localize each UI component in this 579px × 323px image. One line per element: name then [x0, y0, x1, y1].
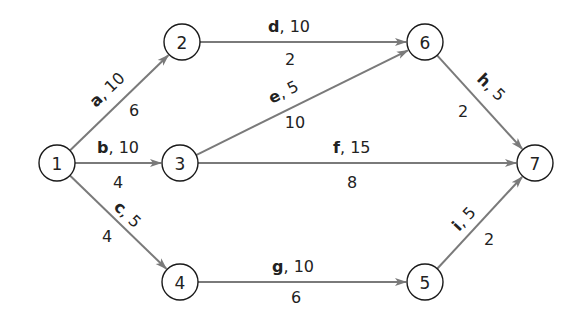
node-label: 7 [530, 154, 541, 174]
activity-top-value: 15 [350, 138, 370, 157]
node-5: 5 [407, 264, 443, 300]
activity-name: b [97, 138, 108, 157]
edge-g-bottom-value: 6 [291, 288, 301, 307]
activity-top-value: 10 [294, 257, 314, 276]
edge-g-label: g, 10 [272, 257, 314, 276]
edge-a-arrow [70, 55, 168, 150]
edge-h-arrow [437, 55, 522, 149]
edge-b-bottom-value: 4 [113, 173, 123, 192]
edge-i-label: i, 5 [448, 203, 480, 235]
edge-e-label: e, 5 [265, 76, 301, 107]
label-separator: , [108, 138, 118, 157]
edge-f-bottom-value: 8 [347, 173, 357, 192]
edge-d-bottom-value: 2 [285, 50, 295, 69]
node-label: 3 [175, 154, 186, 174]
node-3: 3 [162, 145, 198, 181]
edge-a-bottom-value: 6 [129, 101, 139, 120]
edges-layer [70, 42, 522, 282]
network-diagram: 1234567 a, 106b, 104c, 54d, 102e, 510f, … [0, 0, 579, 323]
edge-e-arrow [196, 50, 408, 155]
edge-h-bottom-value: 2 [458, 102, 468, 121]
edge-f-label: f, 15 [333, 138, 371, 157]
activity-top-value: 10 [290, 17, 310, 36]
edge-c-bottom-value: 4 [102, 227, 112, 246]
node-2: 2 [164, 24, 200, 60]
label-separator: , [279, 17, 289, 36]
edge-c-label: c, 5 [110, 197, 145, 231]
node-label: 6 [420, 33, 431, 53]
node-1: 1 [39, 145, 75, 181]
edge-b-label: b, 10 [97, 138, 139, 157]
activity-top-value: 10 [119, 138, 139, 157]
edge-i-bottom-value: 2 [484, 230, 494, 249]
label-separator: , [283, 257, 293, 276]
edge-d-label: d, 10 [268, 17, 310, 36]
activity-name: d [268, 17, 279, 36]
activity-name: g [272, 257, 283, 276]
node-6: 6 [407, 24, 443, 60]
node-label: 2 [177, 33, 188, 53]
node-label: 1 [52, 154, 63, 174]
node-7: 7 [517, 145, 553, 181]
label-separator: , [340, 138, 350, 157]
node-label: 5 [420, 273, 431, 293]
node-label: 4 [175, 273, 186, 293]
diagram-canvas: 1234567 a, 106b, 104c, 54d, 102e, 510f, … [0, 0, 579, 323]
edge-e-bottom-value: 10 [285, 113, 305, 132]
edge-a-label: a, 10 [86, 69, 129, 111]
node-4: 4 [162, 264, 198, 300]
